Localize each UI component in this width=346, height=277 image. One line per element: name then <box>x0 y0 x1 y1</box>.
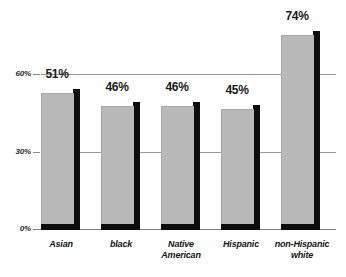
value-label-asian: 51% <box>38 67 76 81</box>
bar-foot-native-american <box>161 223 200 230</box>
bar-face-asian <box>41 93 74 224</box>
category-label-native-american-line2: American <box>150 250 212 261</box>
bar-face-non-hispanic-white <box>281 35 314 224</box>
bar-chart: 60% 30% 0% 51% Asian 46% black 46% Nativ… <box>0 0 346 277</box>
bar-foot-non-hispanic-white <box>281 223 320 230</box>
bar-side-black <box>133 102 140 230</box>
category-label-non-hispanic-white-line1: non-Hispanic <box>264 239 340 250</box>
y-axis-label-60: 60% <box>0 69 31 78</box>
category-label-hispanic: Hispanic <box>211 239 271 250</box>
y-axis-label-30: 30% <box>0 147 31 156</box>
value-label-non-hispanic-white: 74% <box>278 9 316 23</box>
category-label-native-american-line1: Native <box>150 239 212 250</box>
bar-face-native-american <box>161 106 194 224</box>
value-label-hispanic: 45% <box>218 83 256 97</box>
bar-side-hispanic <box>253 105 260 230</box>
bar-foot-black <box>101 223 140 230</box>
category-label-hispanic-line1: Hispanic <box>211 239 271 250</box>
bar-group-hispanic[interactable] <box>221 0 261 277</box>
category-label-black-line1: black <box>93 239 149 250</box>
bar-group-asian[interactable] <box>41 0 81 277</box>
category-label-asian: Asian <box>33 239 89 250</box>
bar-group-non-hispanic-white[interactable] <box>281 0 321 277</box>
category-label-non-hispanic-white-line2: white <box>264 250 340 261</box>
bar-group-black[interactable] <box>101 0 141 277</box>
category-label-asian-line1: Asian <box>33 239 89 250</box>
bar-face-hispanic <box>221 109 254 224</box>
value-label-native-american: 46% <box>158 80 196 94</box>
bar-foot-asian <box>41 223 80 230</box>
category-label-native-american: Native American <box>150 239 212 261</box>
bar-group-native-american[interactable] <box>161 0 201 277</box>
category-label-non-hispanic-white: non-Hispanic white <box>264 239 340 261</box>
bar-side-non-hispanic-white <box>313 31 320 230</box>
bar-side-native-american <box>193 102 200 230</box>
bar-face-black <box>101 106 134 224</box>
bar-side-asian <box>73 89 80 230</box>
bar-foot-hispanic <box>221 223 260 230</box>
value-label-black: 46% <box>98 80 136 94</box>
y-axis-label-0: 0% <box>0 224 31 233</box>
tick-dash-30 <box>33 152 40 153</box>
category-label-black: black <box>93 239 149 250</box>
